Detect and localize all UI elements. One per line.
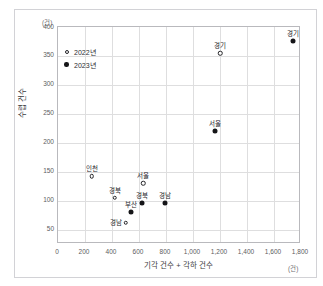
x-axis-tick-label: 400 <box>96 248 126 256</box>
x-axis-tick-label: 1,800 <box>285 248 315 256</box>
legend-item[interactable]: 2023년 <box>62 58 96 71</box>
legend-item-label: 2023년 <box>74 60 96 70</box>
screenshot-canvas: (건) (건) 인천경북경남서울경기부산경북경남서울경기 40035030025… <box>0 0 323 286</box>
x-axis-tick-label: 200 <box>69 248 99 256</box>
y-axis-title: 수렵 건수 <box>16 88 27 118</box>
legend-item[interactable]: 2022년 <box>62 45 96 58</box>
chart-legend: 2022년2023년 <box>62 45 96 71</box>
filled-circle-icon <box>62 62 71 67</box>
x-axis-tick-labels: 02004006008001,0001,2001,4001,6001,800 <box>0 0 323 286</box>
x-axis-tick-label: 1,200 <box>204 248 234 256</box>
x-axis-title: 기각 건수 + 각하 건수 <box>57 259 300 270</box>
x-axis-tick-label: 1,400 <box>231 248 261 256</box>
x-axis-tick-label: 600 <box>123 248 153 256</box>
x-axis-tick-label: 800 <box>150 248 180 256</box>
x-axis-tick-label: 1,000 <box>177 248 207 256</box>
x-axis-tick-label: 0 <box>42 248 72 256</box>
x-axis-tick-label: 1,600 <box>258 248 288 256</box>
legend-item-label: 2022년 <box>74 47 96 57</box>
open-circle-icon <box>62 50 71 54</box>
